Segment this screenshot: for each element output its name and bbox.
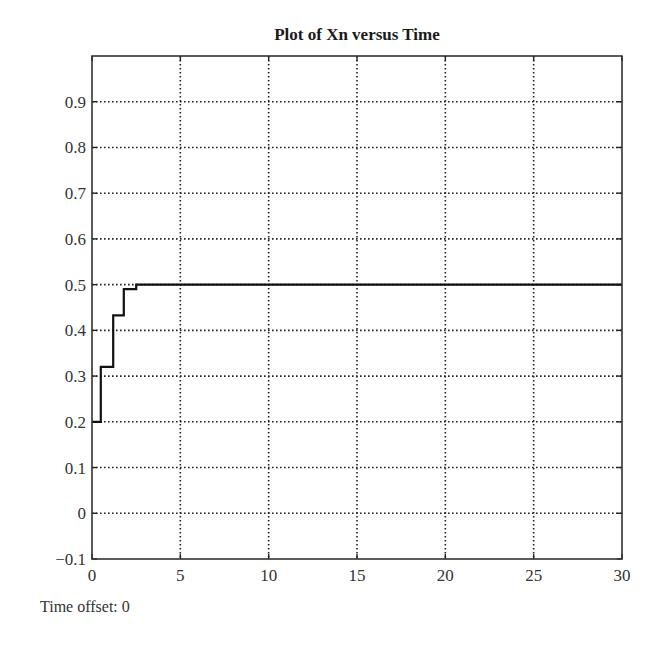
x-tick-label: 20 — [437, 566, 454, 585]
x-tick-label: 0 — [88, 566, 97, 585]
y-tick-label: 0.6 — [65, 230, 86, 249]
axis-ticks — [92, 56, 622, 559]
y-tick-label: 0.1 — [65, 459, 86, 478]
x-tick-label: 25 — [525, 566, 542, 585]
y-tick-label: 0.3 — [65, 367, 86, 386]
grid-lines — [92, 56, 622, 559]
y-tick-label: 0.4 — [65, 321, 87, 340]
chart-title: Plot of Xn versus Time — [274, 25, 440, 44]
x-tick-label: 5 — [176, 566, 185, 585]
y-tick-label: 0 — [78, 504, 87, 523]
y-axis-tick-labels: −0.100.10.20.30.40.50.60.70.80.9 — [55, 93, 86, 569]
plot-frame — [92, 56, 622, 559]
x-axis-tick-labels: 051015202530 — [88, 566, 631, 585]
y-tick-label: 0.7 — [65, 184, 87, 203]
y-tick-label: 0.2 — [65, 413, 86, 432]
x-tick-label: 15 — [349, 566, 366, 585]
y-tick-label: −0.1 — [55, 550, 86, 569]
y-tick-label: 0.8 — [65, 138, 86, 157]
time-offset-label: Time offset: 0 — [40, 598, 130, 616]
y-tick-label: 0.9 — [65, 93, 86, 112]
x-tick-label: 30 — [614, 566, 631, 585]
chart: Plot of Xn versus Time −0.100.10.20.30.4… — [0, 0, 666, 647]
y-tick-label: 0.5 — [65, 276, 86, 295]
x-tick-label: 10 — [260, 566, 277, 585]
